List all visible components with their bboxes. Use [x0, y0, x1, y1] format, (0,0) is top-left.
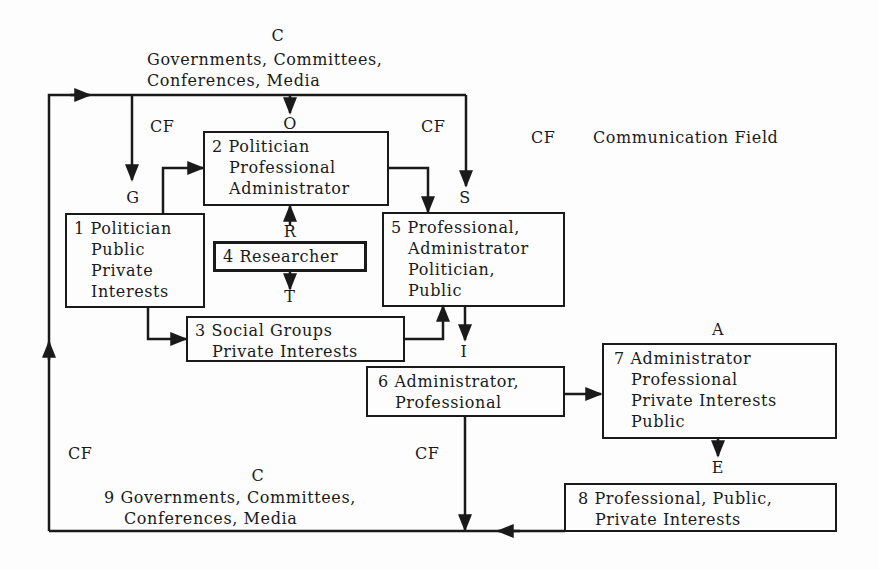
box-1-line: 1 Politician [74, 218, 203, 239]
box-8-line: 8 Professional, Public, [578, 488, 835, 509]
communication-field-diagram: C Governments, Committees, Conferences, … [0, 0, 879, 570]
top-node-line2: Conferences, Media [147, 70, 320, 91]
box-5-line: Administrator [391, 238, 563, 259]
box-5-professional: 5 Professional, Administrator Politician… [382, 212, 565, 307]
box-1-line: Private [74, 260, 203, 281]
cf-label-bottom-left: CF [68, 443, 93, 464]
box-2-politician: 2 Politician Professional Administrator [203, 131, 389, 206]
link-letter-g: G [126, 187, 139, 208]
box3-to-box5-arrow [404, 306, 443, 339]
link-letter-t: T [284, 286, 295, 307]
box-4-researcher: 4 Researcher [213, 241, 367, 272]
link-letter-s: S [459, 187, 471, 208]
box1-to-box2-arrow [163, 168, 203, 213]
cf-label-bottom-right: CF [415, 443, 440, 464]
top-node-line1: Governments, Committees, [147, 49, 382, 70]
box-5-line: Politician, [391, 259, 563, 280]
cf-label-top-right: CF [421, 116, 446, 137]
box-7-line: Private Interests [614, 390, 835, 411]
box-7-line: 7 Administrator [614, 348, 835, 369]
legend-text: Communication Field [593, 127, 778, 148]
link-letter-r: R [284, 221, 297, 242]
box-2-line: Administrator [212, 178, 387, 199]
link-letter-e: E [712, 457, 724, 478]
box-2-line: Professional [212, 157, 387, 178]
top-node-letter: C [272, 25, 285, 46]
box2-to-box5-arrow [388, 168, 428, 212]
link-letter-i: I [461, 341, 468, 362]
box-7-administrator: 7 Administrator Professional Private Int… [602, 343, 837, 439]
box-8-line: Private Interests [578, 509, 835, 530]
box1-to-box3-arrow [148, 307, 186, 339]
box-4-line: 4 Researcher [223, 246, 364, 267]
link-letter-a: A [712, 319, 724, 340]
bottom-node-letter: C [252, 465, 265, 486]
box-1-line: Public [74, 239, 203, 260]
box-3-line: 3 Social Groups [195, 320, 403, 341]
box-5-line: 5 Professional, [391, 217, 563, 238]
box-3-line: Private Interests [195, 341, 403, 362]
box-1-politician: 1 Politician Public Private Interests [65, 213, 205, 308]
bottom-node-line2: Conferences, Media [124, 508, 297, 529]
box-2-line: 2 Politician [212, 136, 387, 157]
box-7-line: Professional [614, 369, 835, 390]
box-1-line: Interests [74, 281, 203, 302]
cf-label-top-left: CF [150, 116, 175, 137]
box-8-professional: 8 Professional, Public, Private Interest… [564, 483, 837, 532]
box-6-line: 6 Administrator, [378, 371, 563, 392]
bottom-node-line1: 9 Governments, Committees, [104, 487, 356, 508]
box-5-line: Public [391, 280, 563, 301]
box-7-line: Public [614, 411, 835, 432]
box-3-social-groups: 3 Social Groups Private Interests [186, 316, 405, 362]
box-6-line: Professional [378, 392, 563, 413]
box-6-administrator: 6 Administrator, Professional [366, 366, 565, 417]
legend-abbr: CF [531, 127, 556, 148]
